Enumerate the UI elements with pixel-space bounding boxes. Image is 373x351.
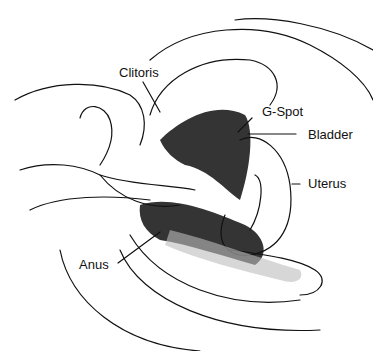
label-uterus: Uterus [308,177,346,190]
body-contour-top [150,29,373,100]
leader-anus [118,232,160,263]
label-bladder: Bladder [308,128,353,141]
mons-pubis [150,59,277,115]
anatomy-diagram: Clitoris G-Spot Bladder Uterus Anus [0,0,373,351]
label-g-spot: G-Spot [262,105,303,118]
label-clitoris: Clitoris [119,66,159,79]
label-anus: Anus [79,258,109,271]
